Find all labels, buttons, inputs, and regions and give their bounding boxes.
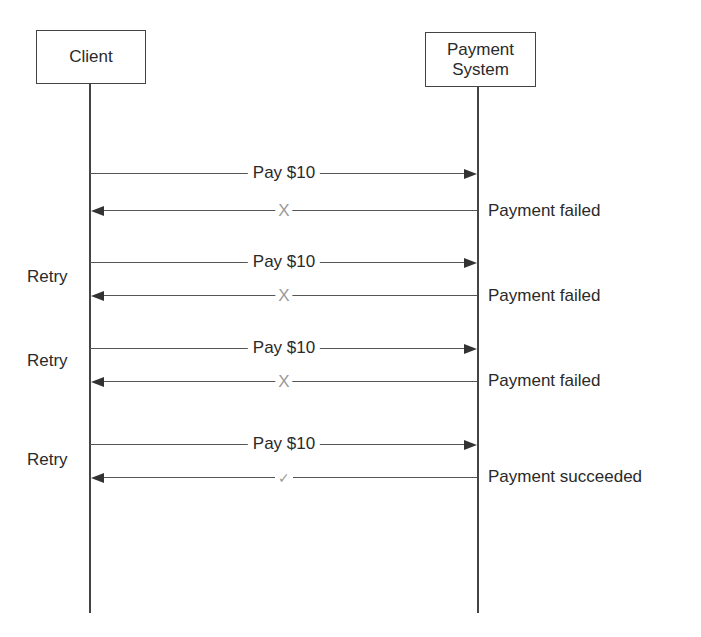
arrowhead-left-icon — [91, 291, 104, 301]
participant-payment-system-label-line2: System — [452, 60, 509, 80]
payment-system-lifeline — [477, 87, 479, 613]
retry-label: Retry — [27, 351, 68, 371]
arrowhead-left-icon — [91, 377, 104, 387]
response-status-label: Payment failed — [488, 201, 600, 221]
arrowhead-right-icon — [464, 169, 477, 179]
participant-payment-system: Payment System — [425, 32, 536, 87]
request-label: Pay $10 — [248, 252, 320, 272]
request-label: Pay $10 — [248, 163, 320, 183]
arrowhead-left-icon — [91, 206, 104, 216]
participant-client: Client — [36, 30, 146, 84]
retry-label: Retry — [27, 450, 68, 470]
request-label: Pay $10 — [248, 434, 320, 454]
request-label: Pay $10 — [248, 338, 320, 358]
success-check-icon: ✓ — [275, 469, 293, 487]
response-status-label: Payment failed — [488, 371, 600, 391]
participant-client-label: Client — [69, 47, 112, 67]
arrowhead-right-icon — [464, 258, 477, 268]
failure-x-icon: X — [275, 373, 292, 391]
arrowhead-right-icon — [464, 440, 477, 450]
arrowhead-left-icon — [91, 473, 104, 483]
response-status-label: Payment failed — [488, 286, 600, 306]
arrowhead-right-icon — [464, 344, 477, 354]
retry-label: Retry — [27, 267, 68, 287]
participant-payment-system-label-line1: Payment — [447, 40, 514, 60]
failure-x-icon: X — [275, 287, 292, 305]
response-status-label: Payment succeeded — [488, 467, 642, 487]
failure-x-icon: X — [275, 202, 292, 220]
